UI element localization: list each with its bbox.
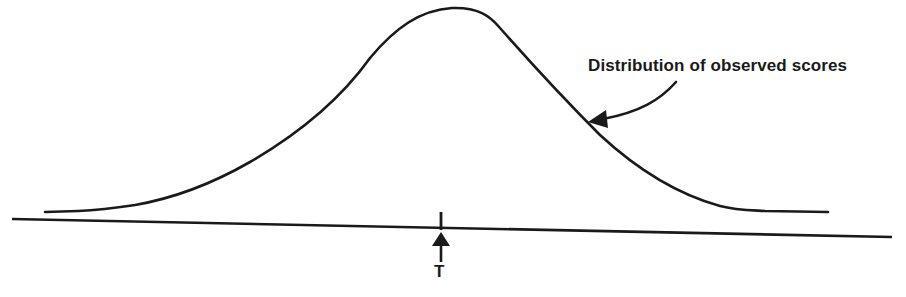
annotation-arrow-shaft	[603, 82, 676, 119]
bell-curve	[45, 8, 828, 212]
annotation-label: Distribution of observed scores	[588, 56, 847, 76]
baseline-axis	[12, 219, 892, 237]
distribution-diagram	[0, 0, 906, 297]
true-score-label: T	[434, 262, 444, 282]
true-score-arrowhead-icon	[432, 232, 450, 246]
